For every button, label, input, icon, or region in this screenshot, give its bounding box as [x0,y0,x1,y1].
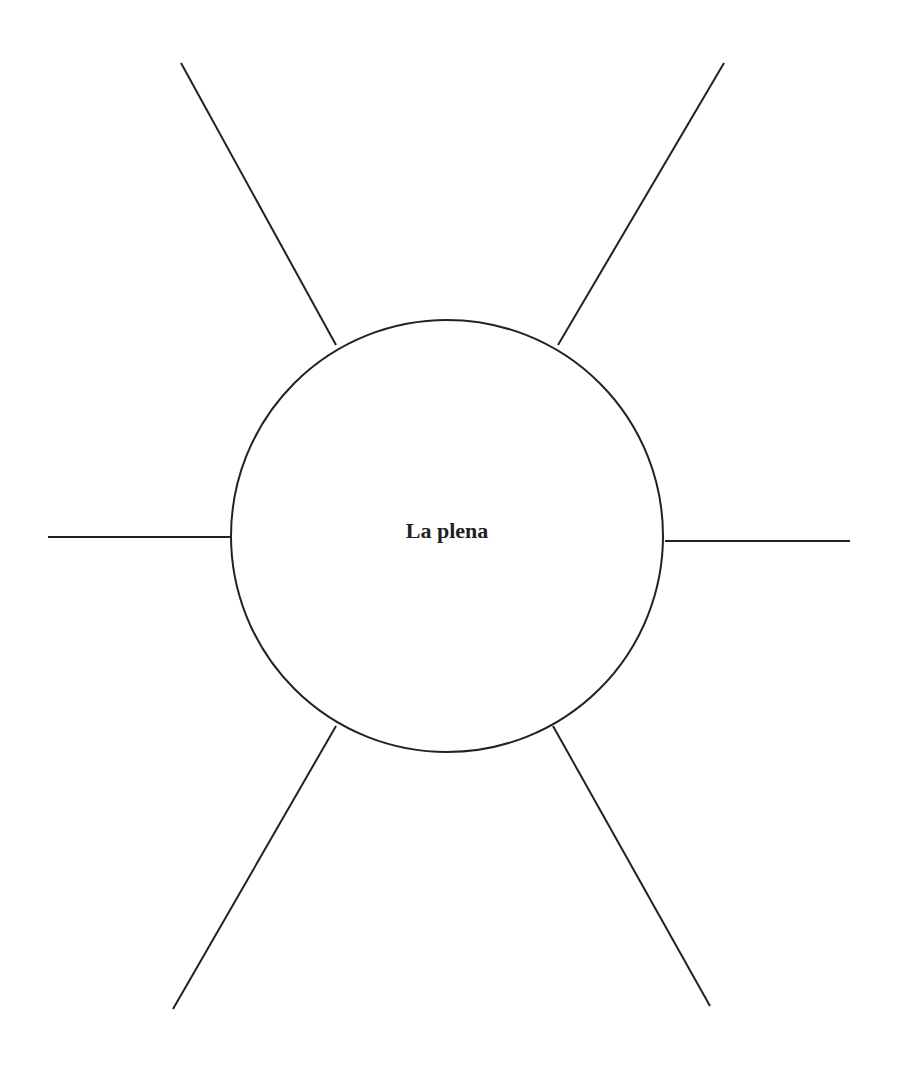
center-label: La plena [347,518,547,544]
spoke-bottom-left [173,726,336,1009]
spoke-top-left [181,63,336,345]
spoke-bottom-right [553,726,710,1006]
spoke-top-right [558,63,724,345]
